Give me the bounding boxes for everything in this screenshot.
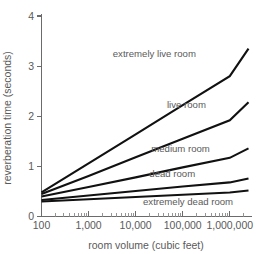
y-tick-label: 1: [28, 160, 34, 172]
series-label-dead-room: dead room: [149, 168, 195, 179]
x-tick-label: 1,000,000: [206, 219, 253, 231]
reverberation-time-line-chart: 01234 1001,00010,000100,0001,000,000 ext…: [0, 0, 265, 254]
y-axis-title: reverberation time (seconds): [1, 51, 13, 185]
x-tick-label: 100: [33, 219, 51, 231]
x-axis-title: room volume (cubic feet): [88, 239, 204, 251]
y-tick-label: 2: [28, 110, 34, 122]
y-tick-label: 3: [28, 60, 34, 72]
series-label-extremely-dead-room: extremely dead room: [143, 196, 233, 207]
chart-figure: 01234 1001,00010,000100,0001,000,000 ext…: [0, 0, 265, 254]
series-label-medium-room: medium room: [151, 143, 210, 154]
x-tick-label: 100,000: [164, 219, 202, 231]
x-tick-label: 10,000: [120, 219, 152, 231]
series-label-live-room: live room: [167, 99, 206, 110]
x-tick-label: 1,000: [75, 219, 101, 231]
y-tick-label: 4: [28, 10, 34, 22]
series-label-extremely-live-room: extremely live room: [113, 48, 196, 59]
